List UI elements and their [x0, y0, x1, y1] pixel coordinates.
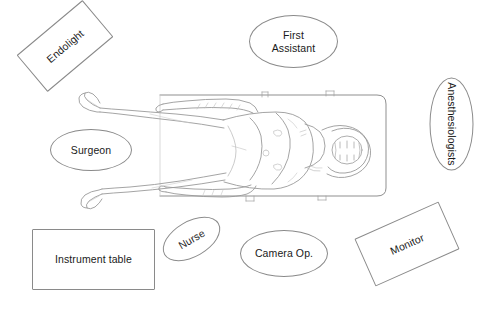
- first-assistant-label: First Assistant: [270, 29, 318, 54]
- role-camera-op[interactable]: Camera Op.: [240, 230, 328, 277]
- endolight-label: Endolight: [42, 26, 87, 67]
- camera-op-label: Camera Op.: [253, 247, 315, 259]
- equipment-instrument-table[interactable]: Instrument table: [32, 229, 155, 290]
- anesthesiologists-label: Anesthesiologists: [445, 80, 457, 167]
- or-layout-diagram: Endolight First Assistant Anesthesiologi…: [0, 0, 487, 316]
- instrument-table-label: Instrument table: [53, 253, 134, 265]
- nurse-label: Nurse: [174, 226, 208, 253]
- role-surgeon[interactable]: Surgeon: [50, 129, 132, 171]
- role-first-assistant[interactable]: First Assistant: [249, 15, 338, 68]
- monitor-label: Monitor: [386, 230, 427, 257]
- surgeon-label: Surgeon: [69, 144, 113, 156]
- role-anesthesiologists[interactable]: Anesthesiologists: [430, 78, 474, 171]
